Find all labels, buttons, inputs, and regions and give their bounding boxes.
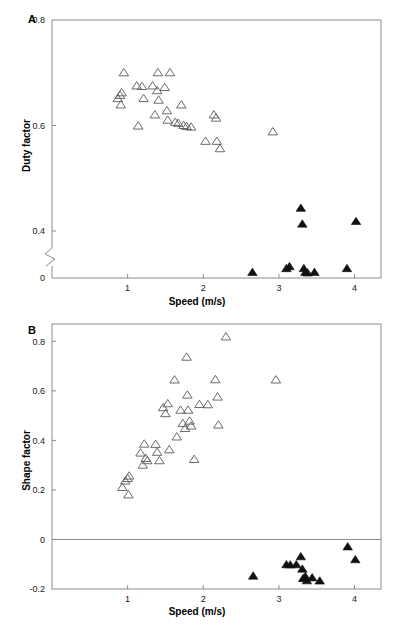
data-point-open-triangle xyxy=(154,96,164,103)
data-point-open-triangle xyxy=(185,417,195,424)
data-point-open-triangle xyxy=(268,128,278,135)
panel-a-axes-frame xyxy=(45,20,381,278)
panel-a-x-axis-title: Speed (m/s) xyxy=(0,296,394,307)
panel-a-letter: A xyxy=(28,13,36,25)
data-point-open-triangle xyxy=(177,101,187,108)
panel-b-xtick-label: 4 xyxy=(352,594,357,604)
data-point-open-triangle xyxy=(214,421,224,428)
panel-b: B Shape factor Speed (m/s) 12340.80.60.4… xyxy=(0,310,394,627)
data-point-open-triangle xyxy=(133,122,143,129)
panel-b-y-axis-title: Shape factor xyxy=(21,418,32,504)
panel-b-xtick-label: 3 xyxy=(276,594,281,604)
data-point-filled-triangle xyxy=(296,552,306,559)
data-point-open-triangle xyxy=(183,391,193,398)
data-point-filled-triangle xyxy=(248,268,258,275)
data-point-filled-triangle xyxy=(248,572,258,579)
data-point-open-triangle xyxy=(211,375,221,382)
data-point-open-triangle xyxy=(164,445,174,452)
data-point-open-triangle xyxy=(137,82,147,89)
data-point-open-triangle xyxy=(271,376,281,383)
data-point-open-triangle xyxy=(172,433,182,440)
panel-a-ytick-label: 0.4 xyxy=(32,226,45,236)
data-point-open-triangle xyxy=(163,116,173,123)
panel-b-plot: 12340.80.60.40.20-0.2 xyxy=(0,310,394,627)
data-point-filled-triangle xyxy=(343,543,353,550)
panel-b-ticks xyxy=(52,341,355,589)
panel-a-ytick-label: 0.6 xyxy=(32,121,45,131)
panel-b-x-axis-title: Speed (m/s) xyxy=(0,606,394,617)
data-point-open-triangle xyxy=(153,68,163,75)
data-point-open-triangle xyxy=(215,144,225,151)
panel-a-xtick-label: 2 xyxy=(201,283,206,293)
data-point-open-triangle xyxy=(221,333,231,340)
data-point-filled-triangle xyxy=(351,217,361,224)
data-point-open-triangle xyxy=(155,456,165,463)
panel-b-xtick-label: 2 xyxy=(201,594,206,604)
panel-b-ytick-label: 0.2 xyxy=(32,485,45,495)
panel-a-y-axis-title: Duty factor xyxy=(21,106,32,186)
panel-b-ytick-label: 0.8 xyxy=(32,337,45,347)
data-point-open-triangle xyxy=(201,137,211,144)
data-point-filled-triangle xyxy=(292,560,302,567)
data-point-open-triangle xyxy=(189,455,199,462)
panel-b-ytick-label: 0 xyxy=(40,535,45,545)
data-point-open-triangle xyxy=(195,400,205,407)
data-point-filled-triangle xyxy=(310,268,320,275)
data-point-open-triangle xyxy=(213,393,223,400)
scientific-figure: A Duty factor Speed (m/s) 12340.80.60.40… xyxy=(0,0,394,627)
data-point-open-triangle xyxy=(136,449,146,456)
panel-b-xtick-label: 1 xyxy=(125,594,130,604)
data-point-open-triangle xyxy=(152,448,162,455)
panel-b-ytick-label: 0.6 xyxy=(32,386,45,396)
data-point-open-triangle xyxy=(203,400,213,407)
data-point-open-triangle xyxy=(170,376,180,383)
data-point-filled-triangle xyxy=(342,264,352,271)
data-point-open-triangle xyxy=(160,83,170,90)
panel-a-xtick-label: 1 xyxy=(125,283,130,293)
panel-b-ytick-label: 0.4 xyxy=(32,436,45,446)
data-point-open-triangle xyxy=(140,440,150,447)
panel-a-ytick-label: 0 xyxy=(40,273,45,283)
panel-b-data-points xyxy=(118,333,360,585)
data-point-open-triangle xyxy=(124,491,134,498)
panel-a-plot: 12340.80.60.40 xyxy=(0,0,394,310)
panel-a-data-points xyxy=(113,68,361,276)
data-point-filled-triangle xyxy=(351,555,361,562)
data-point-open-triangle xyxy=(212,137,222,144)
panel-a: A Duty factor Speed (m/s) 12340.80.60.40 xyxy=(0,0,394,310)
data-point-filled-triangle xyxy=(296,204,306,211)
panel-b-letter: B xyxy=(28,324,36,336)
data-point-filled-triangle xyxy=(298,220,308,227)
panel-b-axes-frame xyxy=(52,324,381,589)
data-point-open-triangle xyxy=(162,106,172,113)
data-point-open-triangle xyxy=(141,454,151,461)
data-point-open-triangle xyxy=(139,94,149,101)
data-point-open-triangle xyxy=(151,440,161,447)
panel-a-ticks xyxy=(52,126,355,279)
panel-a-tick-labels: 12340.80.60.40 xyxy=(32,15,357,293)
data-point-open-triangle xyxy=(182,353,192,360)
panel-a-xtick-label: 3 xyxy=(276,283,281,293)
data-point-open-triangle xyxy=(150,111,160,118)
panel-b-ytick-label: -0.2 xyxy=(29,584,45,594)
data-point-open-triangle xyxy=(165,68,175,75)
data-point-open-triangle xyxy=(119,68,129,75)
panel-b-tick-labels: 12340.80.60.40.20-0.2 xyxy=(29,337,357,604)
panel-a-xtick-label: 4 xyxy=(352,283,357,293)
